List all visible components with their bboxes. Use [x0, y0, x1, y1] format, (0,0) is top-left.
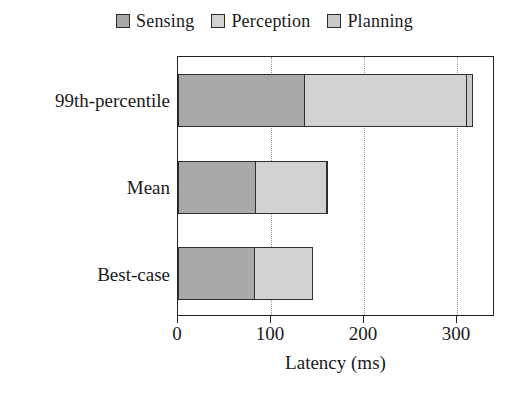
legend-label-planning: Planning: [347, 12, 413, 30]
x-tick-label-100: 100: [256, 324, 285, 344]
y-tick-label-best-case: Best-case: [0, 265, 170, 284]
bar-segment-sensing: [178, 247, 255, 300]
bar-segment-sensing: [178, 161, 256, 214]
legend-entry-perception: Perception: [211, 12, 310, 30]
y-tick-label-99th: 99th-percentile: [0, 91, 170, 110]
legend-swatch-icon-sensing: [116, 14, 130, 28]
bar-segment-sensing: [178, 74, 305, 127]
x-tick-mark-300: [456, 316, 457, 323]
bar-best-case: [178, 247, 313, 300]
legend-entry-sensing: Sensing: [116, 12, 194, 30]
legend-label-sensing: Sensing: [136, 12, 194, 30]
legend-swatch-icon-planning: [327, 14, 341, 28]
x-axis-title: Latency (ms): [177, 352, 494, 374]
chart-legend: Sensing Perception Planning: [0, 12, 529, 30]
x-tick-label-0: 0: [172, 324, 182, 344]
legend-entry-planning: Planning: [327, 12, 413, 30]
x-axis: 0100200300: [177, 316, 494, 346]
bar-99th-percentile: [178, 74, 473, 127]
bar-segment-perception: [255, 161, 328, 214]
legend-swatch-icon-perception: [211, 14, 225, 28]
x-tick-mark-200: [363, 316, 364, 323]
latency-breakdown-chart: Sensing Perception Planning 99th-percent…: [0, 0, 529, 400]
bar-segment-perception: [254, 247, 313, 300]
legend-label-perception: Perception: [231, 12, 310, 30]
bar-segment-planning: [466, 74, 473, 127]
x-tick-label-300: 300: [442, 324, 471, 344]
y-axis-tick-labels: 99th-percentile Mean Best-case: [0, 56, 170, 316]
x-tick-mark-0: [177, 316, 178, 323]
y-tick-label-mean: Mean: [0, 178, 170, 197]
bar-mean: [178, 161, 328, 214]
bar-segment-perception: [304, 74, 468, 127]
plot-area: [177, 56, 494, 316]
x-tick-mark-100: [270, 316, 271, 323]
bar-segment-planning: [326, 161, 328, 214]
x-tick-label-200: 200: [349, 324, 378, 344]
